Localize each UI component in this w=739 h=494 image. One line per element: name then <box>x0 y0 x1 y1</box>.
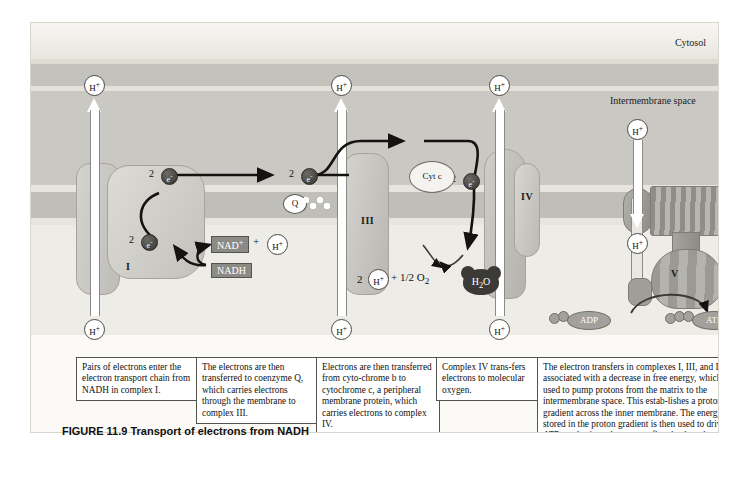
complex-iii-label: III <box>361 215 374 226</box>
proton-label-bottom-complex-i: H+ <box>84 319 105 340</box>
complex-v-label: V <box>671 268 679 279</box>
proton-label-oxygen: H+ <box>368 269 389 290</box>
proton-label-top-atp-synthase: H+ <box>627 119 648 140</box>
electron-dot-complex-iii: e- <box>301 168 318 185</box>
two-prefix-oxygen: 2 <box>357 273 363 285</box>
caption-box-3: Electrons are then transferred from cyto… <box>316 357 440 433</box>
figure-panel: Cytosol Intermembrane space Matrix I III… <box>30 22 719 433</box>
electron-dot-complex-i-upper: e- <box>161 168 178 185</box>
cytosol-band <box>31 23 718 59</box>
intermembrane-space-label: Intermembrane space <box>610 95 706 107</box>
nad-plus-label: NAD+ <box>211 236 249 253</box>
proton-label-bottom-complex-iii: H+ <box>331 319 352 340</box>
complex-iv-label: IV <box>521 191 533 202</box>
proton-arrow-complex-i <box>87 98 101 316</box>
adp-label: ADP <box>567 311 611 330</box>
proton-arrow-complex-iii <box>334 98 348 316</box>
proton-label-bottom-complex-iv: H+ <box>489 319 510 340</box>
proton-label-top-complex-iii: H+ <box>331 75 352 96</box>
caption-box-4: Complex IV trans-fers electrons to molec… <box>436 357 542 401</box>
oxygen-expression: + 1/2 O2 <box>391 271 429 286</box>
complex-iv-shape-secondary <box>514 163 540 257</box>
proton-label-top-complex-i: H+ <box>84 75 105 96</box>
coenzyme-q-tail <box>302 196 332 210</box>
complex-i-shape-right <box>107 165 205 279</box>
complex-i-label: I <box>126 261 130 272</box>
proton-label-top-complex-iv: H+ <box>489 75 510 96</box>
proton-arrow-atp-synthase <box>630 140 644 228</box>
electron-count-complex-i-upper: 2 <box>149 168 154 179</box>
caption-box-1: Pairs of electrons enter the electron tr… <box>76 357 200 401</box>
electron-dot-complex-i-lower: e- <box>141 234 158 251</box>
caption-box-5: The electron transfers in complexes I, I… <box>537 357 719 433</box>
cytosol-label: Cytosol <box>675 37 706 49</box>
figure-title: FIGURE 11.9 Transport of electrons from … <box>62 424 322 438</box>
cytochrome-c-label: Cyt c <box>409 161 455 193</box>
caption-box-2: The electrons are then transferred to co… <box>196 357 320 424</box>
figure-root: Cytosol Intermembrane space Matrix I III… <box>0 0 739 494</box>
atp-synthase-f1-head <box>651 249 719 309</box>
electron-dot-complex-iv: e- <box>463 173 480 190</box>
plus-sign-nad: + <box>253 235 259 247</box>
electron-count-complex-i-lower: 2 <box>129 234 134 245</box>
atp-synthase-fo-barrel <box>650 186 719 236</box>
nadh-label: NADH <box>211 263 252 278</box>
outer-membrane <box>31 64 718 86</box>
electron-count-complex-iii: 2 <box>289 168 294 179</box>
atp-synthase-foot <box>628 278 652 306</box>
proton-label-nad: H+ <box>267 234 288 255</box>
water-molecule: H2O <box>463 269 499 295</box>
proton-label-bottom-atp-synthase: H+ <box>627 233 648 254</box>
